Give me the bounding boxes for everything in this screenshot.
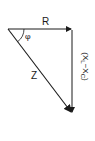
impedance-label: Z xyxy=(31,71,37,81)
reactance-label-open: (X xyxy=(81,52,90,60)
phase-angle-arc xyxy=(18,29,24,42)
resistance-label: R xyxy=(42,17,49,27)
reactance-label: (XL−XC) xyxy=(80,47,89,87)
phase-angle-label: φ xyxy=(25,33,31,41)
reactance-label-minus: −X xyxy=(81,64,90,74)
reactance-label-close: ) xyxy=(81,78,90,81)
